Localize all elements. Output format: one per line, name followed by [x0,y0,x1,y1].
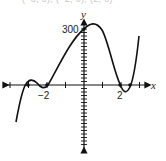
x-axis-label: x [150,79,156,91]
x-tick-label-neg2: −2 [38,90,50,101]
polynomial-graph: y 300 x −2 2 [0,0,166,161]
polynomial-curve [16,24,139,122]
x-intercept-dot [118,83,122,87]
y-intercept-dot [82,27,86,31]
x-intercept-dot [26,83,30,87]
y-tick-label-300: 300 [62,24,79,35]
x-tick-label-2: 2 [117,90,123,101]
y-axis-label: y [80,8,86,20]
x-intercept-dot [128,83,132,87]
x-intercept-dot [45,83,49,87]
